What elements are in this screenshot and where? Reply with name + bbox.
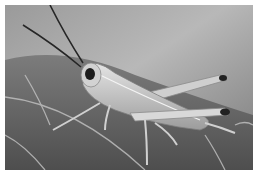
leg-tip-far <box>219 75 227 81</box>
leg-tip-near <box>220 109 230 116</box>
eye <box>85 68 95 80</box>
grasshopper-photo <box>5 5 253 170</box>
photo-canvas <box>5 5 253 170</box>
